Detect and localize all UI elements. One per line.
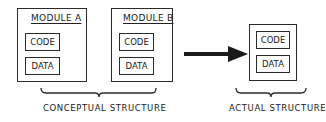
actual-caption: ACTUAL STRUCTURE (229, 103, 326, 113)
conceptual-brace (41, 88, 156, 97)
actual-data-segment: DATA (256, 55, 290, 73)
module-a-title: MODULE A (31, 13, 82, 23)
module-b-title: MODULE B (123, 13, 174, 23)
module-b-data-segment: DATA (119, 57, 154, 75)
module-b-code-segment: CODE (119, 33, 154, 51)
transform-arrow (184, 46, 248, 62)
actual-code-segment: CODE (256, 31, 290, 49)
module-a-data-segment: DATA (25, 57, 60, 75)
module-a-code-segment: CODE (25, 33, 60, 51)
conceptual-caption: CONCEPTUAL STRUCTURE (43, 103, 166, 113)
actual-brace (236, 88, 306, 97)
